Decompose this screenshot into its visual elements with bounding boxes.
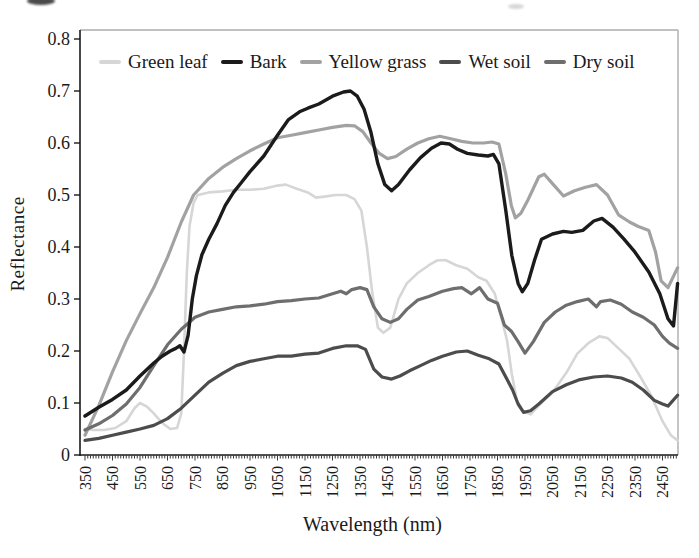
legend-swatch-bark bbox=[221, 60, 243, 64]
x-tick-label: 2350 bbox=[627, 466, 644, 498]
legend-item-yellow-grass: Yellow grass bbox=[300, 51, 427, 73]
x-tick-label: 1450 bbox=[379, 466, 396, 498]
x-tick-label: 550 bbox=[132, 466, 149, 490]
x-axis-title: Wavelength (nm) bbox=[80, 513, 665, 536]
legend-item-dry-soil: Dry soil bbox=[544, 51, 635, 73]
x-tick-label: 2150 bbox=[572, 466, 589, 498]
y-tick-label: 0.6 bbox=[48, 133, 71, 153]
x-tick-label: 1550 bbox=[407, 466, 424, 498]
x-tick-label: 450 bbox=[104, 466, 121, 490]
legend-swatch-yellow-grass bbox=[300, 60, 322, 64]
y-tick-label: 0 bbox=[61, 445, 70, 465]
legend-item-green-leaf: Green leaf bbox=[99, 51, 208, 73]
x-tick-label: 2450 bbox=[654, 466, 671, 498]
legend-swatch-green-leaf bbox=[99, 60, 121, 64]
series-dry-soil-line bbox=[85, 288, 678, 430]
legend-item-bark: Bark bbox=[221, 51, 287, 73]
x-tick-label: 1950 bbox=[517, 466, 534, 498]
x-tick-label: 1350 bbox=[352, 466, 369, 498]
legend-label-bark: Bark bbox=[250, 51, 287, 73]
plot-area: 00.10.20.30.40.50.60.70.8350450550650750… bbox=[0, 0, 699, 558]
legend-label-yellow-grass: Yellow grass bbox=[329, 51, 427, 73]
legend-label-dry-soil: Dry soil bbox=[573, 51, 635, 73]
y-tick-label: 0.4 bbox=[48, 237, 71, 257]
legend: Green leafBarkYellow grassWet soilDry so… bbox=[99, 50, 659, 74]
x-tick-label: 1650 bbox=[434, 466, 451, 498]
x-tick-label: 350 bbox=[77, 466, 94, 490]
x-tick-label: 850 bbox=[214, 466, 231, 490]
x-tick-label: 2050 bbox=[544, 466, 561, 498]
legend-item-wet-soil: Wet soil bbox=[439, 51, 530, 73]
legend-swatch-dry-soil bbox=[544, 60, 566, 64]
y-tick-label: 0.8 bbox=[48, 29, 71, 49]
y-tick-label: 0.1 bbox=[48, 393, 71, 413]
reflectance-spectra-figure: Reflectance 00.10.20.30.40.50.60.70.8350… bbox=[0, 0, 699, 558]
y-tick-label: 0.2 bbox=[48, 341, 71, 361]
x-tick-label: 1850 bbox=[489, 466, 506, 498]
x-tick-label: 1150 bbox=[297, 466, 314, 497]
series-green-leaf-line bbox=[85, 185, 678, 441]
y-tick-label: 0.3 bbox=[48, 289, 71, 309]
x-tick-label: 950 bbox=[242, 466, 259, 490]
series-bark-line bbox=[85, 91, 678, 416]
x-tick-label: 2250 bbox=[599, 466, 616, 498]
legend-label-green-leaf: Green leaf bbox=[128, 51, 208, 73]
x-tick-label: 650 bbox=[159, 466, 176, 490]
x-tick-label: 750 bbox=[187, 466, 204, 490]
y-tick-label: 0.5 bbox=[48, 185, 71, 205]
y-tick-label: 0.7 bbox=[48, 81, 71, 101]
legend-label-wet-soil: Wet soil bbox=[468, 51, 530, 73]
series-wet-soil-line bbox=[85, 346, 678, 441]
x-tick-label: 1250 bbox=[324, 466, 341, 498]
x-tick-label: 1050 bbox=[269, 466, 286, 498]
legend-swatch-wet-soil bbox=[439, 60, 461, 64]
x-tick-label: 1750 bbox=[462, 466, 479, 498]
